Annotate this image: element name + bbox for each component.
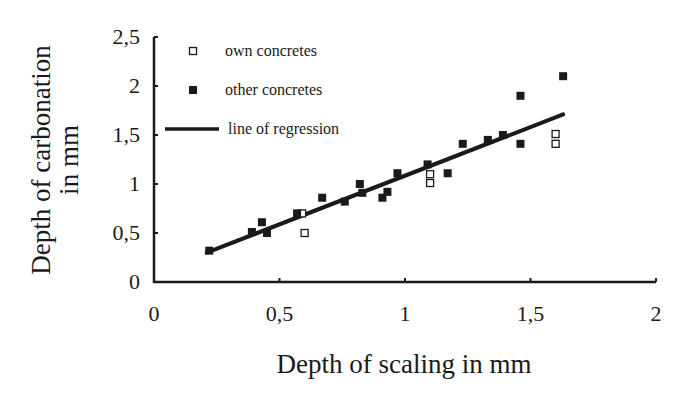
data-point	[205, 247, 213, 255]
legend-square-icon	[190, 48, 197, 55]
legend-label: line of regression	[228, 120, 339, 138]
data-point	[516, 140, 524, 148]
data-point	[356, 180, 364, 188]
legend-item: line of regression	[165, 120, 339, 138]
data-point	[559, 72, 567, 80]
x-tick-label: 0,5	[266, 301, 294, 326]
y-axis-title-line1: Depth of carbonation	[26, 45, 56, 275]
data-point	[318, 194, 326, 202]
data-point	[484, 136, 492, 144]
y-axis-title-line2: in mm	[54, 125, 84, 195]
data-point	[424, 160, 432, 168]
data-point	[341, 198, 349, 206]
legend: own concretesother concretesline of regr…	[165, 42, 339, 138]
scatter-chart: 00,511,522,500,511,52 own concretesother…	[0, 0, 684, 396]
data-point	[459, 140, 467, 148]
data-point	[427, 171, 434, 178]
y-tick-label: 1,5	[113, 122, 141, 147]
legend-item: own concretes	[190, 42, 317, 59]
x-tick-label: 2	[651, 301, 662, 326]
data-point	[427, 180, 434, 187]
axes: 00,511,522,500,511,52	[113, 24, 662, 326]
y-tick-label: 1	[129, 171, 140, 196]
legend-label: own concretes	[225, 42, 317, 59]
x-axis-title: Depth of scaling in mm	[277, 349, 532, 379]
data-point	[499, 131, 507, 139]
y-tick-label: 0,5	[113, 220, 141, 245]
y-tick-label: 0	[129, 269, 140, 294]
x-tick-label: 1,5	[517, 301, 545, 326]
data-point	[258, 218, 266, 226]
series-other-concretes	[205, 72, 567, 254]
data-point	[263, 229, 271, 237]
y-tick-label: 2	[129, 73, 140, 98]
data-point	[358, 189, 366, 197]
data-point	[552, 131, 559, 138]
legend-item: other concretes	[189, 81, 322, 98]
data-point	[383, 188, 391, 196]
data-point	[552, 140, 559, 147]
plot-area	[205, 72, 567, 254]
legend-label: other concretes	[225, 81, 322, 98]
x-tick-label: 1	[400, 301, 411, 326]
x-tick-label: 0	[149, 301, 160, 326]
y-tick-label: 2,5	[113, 24, 141, 49]
data-point	[444, 169, 452, 177]
data-point	[516, 92, 524, 100]
data-point	[301, 230, 308, 237]
data-point	[393, 169, 401, 177]
data-point	[248, 228, 256, 236]
data-point	[293, 209, 301, 217]
legend-square-icon	[189, 86, 197, 94]
